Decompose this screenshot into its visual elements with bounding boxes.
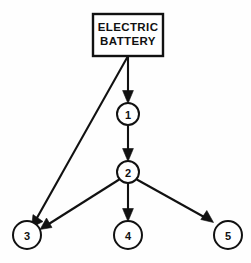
- node-3[interactable]: 3: [13, 221, 41, 249]
- edge-2-to-4-arrowhead: [123, 209, 134, 222]
- diagram-canvas: ELECTRIC BATTERY 1 2 3 4: [0, 0, 251, 263]
- node-2[interactable]: 2: [117, 161, 139, 183]
- node-1[interactable]: 1: [117, 103, 139, 125]
- node-3-label: 3: [24, 230, 30, 242]
- edge-2-to-5: [137, 180, 214, 223]
- edge-1-to-2: [123, 125, 134, 162]
- node-4[interactable]: 4: [114, 221, 142, 249]
- edge-battery-to-1-arrowhead: [123, 91, 134, 104]
- electric-battery-label-line2: BATTERY: [100, 35, 156, 47]
- electric-battery-box[interactable]: ELECTRIC BATTERY: [93, 14, 163, 56]
- electric-battery-label-line1: ELECTRIC: [98, 21, 159, 33]
- diagram-svg: ELECTRIC BATTERY 1 2 3 4: [0, 0, 251, 263]
- edge-2-to-4: [123, 183, 134, 222]
- edge-2-to-5-arrowhead: [201, 211, 214, 223]
- node-5[interactable]: 5: [214, 221, 242, 249]
- node-5-label: 5: [225, 230, 231, 242]
- edge-battery-to-3-line: [36, 56, 129, 221]
- edges-group: [32, 56, 214, 230]
- edge-1-to-2-arrowhead: [123, 149, 134, 162]
- node-4-label: 4: [125, 230, 132, 242]
- node-1-label: 1: [125, 109, 131, 121]
- edge-2-to-5-line: [137, 180, 205, 218]
- edge-battery-to-3: [32, 56, 129, 228]
- edge-2-to-3-line: [48, 180, 119, 225]
- node-2-label: 2: [125, 167, 131, 179]
- edge-2-to-3: [40, 180, 119, 230]
